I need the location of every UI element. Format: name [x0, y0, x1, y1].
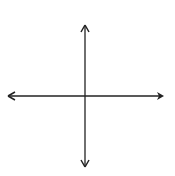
coordinate-plane — [0, 0, 175, 176]
x-axis — [8, 92, 164, 100]
